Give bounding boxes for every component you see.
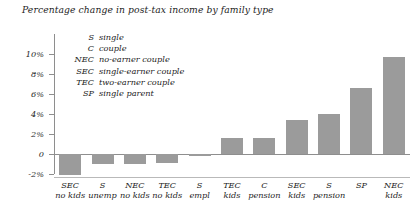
legend-label: single-earner couple: [99, 66, 184, 76]
y-axis-tick: [49, 174, 54, 175]
bar: [221, 138, 243, 154]
y-axis-tick: [49, 134, 54, 135]
bar: [189, 154, 211, 156]
legend-abbreviation: S: [66, 32, 94, 42]
legend-item: SPsingle parent: [66, 88, 184, 99]
bar: [253, 138, 275, 154]
bar: [286, 120, 308, 154]
y-axis-tick-label: -2%: [0, 169, 44, 179]
y-axis-tick: [49, 114, 54, 115]
y-axis-tick-label: 0: [0, 149, 44, 159]
bar: [59, 154, 81, 175]
legend-abbreviation: NEC: [66, 54, 94, 64]
legend-abbreviation: SEC: [66, 66, 94, 76]
bar: [156, 154, 178, 163]
x-axis-label: NECkids: [366, 181, 415, 200]
y-axis-tick-label: 10%: [0, 49, 44, 59]
bar: [124, 154, 146, 164]
legend-label: single: [99, 32, 124, 42]
chart-title: Percentage change in post-tax income by …: [22, 4, 274, 15]
legend-label: two-earner couple: [99, 77, 175, 87]
bar: [318, 114, 340, 154]
y-axis-tick-label: 2%: [0, 129, 44, 139]
legend-item: SECsingle-earner couple: [66, 66, 184, 77]
y-axis-line: [54, 34, 55, 174]
bar: [350, 88, 372, 154]
legend-abbreviation: SP: [66, 88, 94, 98]
bar: [92, 154, 114, 164]
legend-abbreviation: TEC: [66, 77, 94, 87]
y-axis-tick-label: 6%: [0, 89, 44, 99]
legend-abbreviation: C: [66, 43, 94, 53]
y-axis-tick: [49, 74, 54, 75]
y-axis-tick-label: 4%: [0, 109, 44, 119]
legend-item: TECtwo-earner couple: [66, 77, 184, 88]
legend-label: no-earner couple: [99, 54, 170, 64]
bar: [383, 57, 405, 154]
legend-item: NECno-earner couple: [66, 54, 184, 65]
y-axis-tick: [49, 54, 54, 55]
legend-label: single parent: [99, 88, 154, 98]
legend-label: couple: [99, 43, 127, 53]
y-axis-tick: [49, 94, 54, 95]
legend-item: Ssingle: [66, 32, 184, 43]
bar-chart-figure: Percentage change in post-tax income by …: [0, 0, 415, 211]
y-axis-tick-label: 8%: [0, 69, 44, 79]
bottom-rule: [54, 177, 410, 178]
legend-item: Ccouple: [66, 43, 184, 54]
legend: SsingleCcoupleNECno-earner coupleSECsing…: [66, 32, 184, 99]
